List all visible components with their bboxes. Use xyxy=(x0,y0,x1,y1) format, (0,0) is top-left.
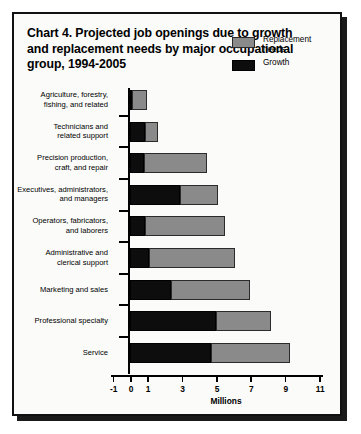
category-label-line-1: Technicians and xyxy=(0,122,108,132)
category-label: Executives, administrators,and managers xyxy=(0,185,108,204)
category-axis-tick xyxy=(119,304,129,306)
bar-segment-replacement xyxy=(180,185,218,205)
bar-segment-replacement xyxy=(149,248,235,268)
x-axis-tick-label: 9 xyxy=(283,384,288,394)
x-axis-tick-label: 7 xyxy=(249,384,254,394)
category-axis-tick xyxy=(119,273,129,275)
category-label-line-1: Marketing and sales xyxy=(0,285,108,295)
category-axis-tick xyxy=(119,336,129,338)
category-label-line-2: craft, and repair xyxy=(0,163,108,173)
category-label: Operators, fabricators,and laborers xyxy=(0,216,108,235)
x-axis-tick xyxy=(182,375,184,382)
category-label-line-1: Precision production, xyxy=(0,153,108,163)
category-axis-tick xyxy=(119,241,129,243)
x-axis-tick xyxy=(216,375,218,382)
category-label-line-2: related support xyxy=(0,131,108,141)
x-axis-tick-label: 3 xyxy=(180,384,185,394)
x-axis-tick xyxy=(250,375,252,382)
bar-segment-replacement xyxy=(144,153,208,173)
category-label-line-1: Professional specialty xyxy=(0,316,108,326)
category-label-line-2: and managers xyxy=(0,194,108,204)
category-label: Service xyxy=(0,348,108,358)
x-axis-tick xyxy=(130,375,132,382)
category-label: Administrative andclerical support xyxy=(0,248,108,267)
x-axis-tick-label: 1 xyxy=(146,384,151,394)
legend-swatch-replacement-icon xyxy=(232,37,255,48)
category-label: Precision production,craft, and repair xyxy=(0,153,108,172)
category-label-line-1: Operators, fabricators, xyxy=(0,216,108,226)
category-label-line-2: fishing, and related xyxy=(0,100,108,110)
bar-segment-replacement xyxy=(211,343,290,363)
category-label-line-1: Service xyxy=(0,348,108,358)
x-axis-tick-label: 5 xyxy=(215,384,220,394)
x-axis-tick-label: -1 xyxy=(110,384,117,394)
bar-segment-growth xyxy=(130,311,216,331)
category-label: Technicians andrelated support xyxy=(0,122,108,141)
bar-segment-replacement xyxy=(171,280,250,300)
x-axis-tick xyxy=(113,375,115,382)
bar-segment-replacement xyxy=(216,311,271,331)
category-label-line-1: Agriculture, forestry, xyxy=(0,90,108,100)
bar-segment-growth xyxy=(130,216,145,236)
bar-segment-growth xyxy=(130,185,180,205)
x-axis-tick xyxy=(285,375,287,382)
category-axis-tick xyxy=(119,115,129,117)
legend-item-replacement-needs: Replacement needs xyxy=(232,36,337,50)
category-axis-tick xyxy=(119,178,129,180)
category-label: Marketing and sales xyxy=(0,285,108,295)
category-label-line-1: Executives, administrators, xyxy=(0,185,108,195)
category-label-line-2: and laborers xyxy=(0,226,108,236)
x-axis-tick-label: 0 xyxy=(129,384,134,394)
bar-segment-growth xyxy=(130,280,171,300)
x-axis-title: Millions xyxy=(130,396,322,406)
x-axis-tick xyxy=(147,375,149,382)
legend-item-growth: Growth xyxy=(232,59,337,73)
bar-segment-replacement xyxy=(145,216,224,236)
x-axis-tick xyxy=(319,375,321,382)
category-label-line-1: Administrative and xyxy=(0,248,108,258)
legend-label-growth: Growth xyxy=(263,58,333,68)
bar-segment-replacement xyxy=(132,90,147,110)
bar-segment-growth xyxy=(130,248,149,268)
legend-label-replacement: Replacement needs xyxy=(263,35,333,54)
legend-label-growth-line-1: Growth xyxy=(263,58,289,67)
category-axis-tick xyxy=(119,146,129,148)
category-label-line-2: clerical support xyxy=(0,258,108,268)
legend-label-replacement-line-1: Replacement xyxy=(263,35,311,44)
chart-card: Chart 4. Projected job openings due to g… xyxy=(12,12,342,416)
bar-segment-growth xyxy=(130,343,211,363)
x-axis-tick-label: 11 xyxy=(316,384,325,394)
chart-page: Chart 4. Projected job openings due to g… xyxy=(0,0,361,434)
category-label: Professional specialty xyxy=(0,316,108,326)
category-axis-tick xyxy=(119,210,129,212)
bar-segment-growth xyxy=(130,122,145,142)
legend-swatch-growth-icon xyxy=(232,60,255,71)
category-label: Agriculture, forestry,fishing, and relat… xyxy=(0,90,108,109)
plot-area: Agriculture, forestry,fishing, and relat… xyxy=(14,76,340,416)
bar-segment-growth xyxy=(130,153,144,173)
legend-label-replacement-line-2: needs xyxy=(263,45,285,54)
bar-segment-replacement xyxy=(145,122,158,142)
